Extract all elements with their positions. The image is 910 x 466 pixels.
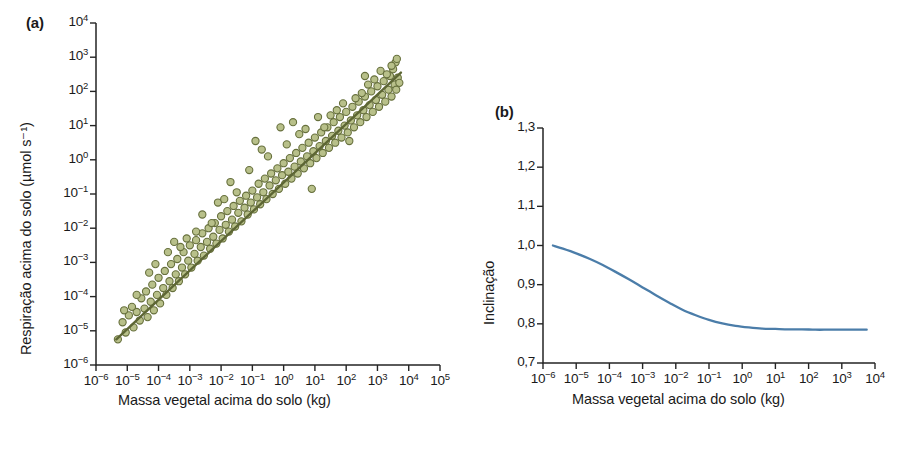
panel-a: (a) Respiração acima do solo (µmol s⁻¹) …	[0, 0, 470, 430]
panel-a-y-ticks	[90, 23, 96, 365]
panel-a-regression-line	[116, 73, 401, 340]
panel-b-label: (b)	[495, 103, 514, 120]
panel-a-y-tick-label: 10−5	[32, 322, 88, 337]
panel-b-y-tick-label: 1,0	[485, 237, 535, 252]
panel-b-slope-curve	[553, 246, 867, 330]
panel-a-y-tick-label: 10−6	[32, 356, 88, 371]
panel-a-y-tick-label: 10−4	[32, 288, 88, 303]
panel-b-x-tick-label: 104	[856, 371, 894, 386]
panel-b-x-axis-title: Massa vegetal acima do solo (kg)	[572, 391, 785, 407]
panel-b-y-tick-label: 0,9	[485, 276, 535, 291]
panel-a-x-ticks	[96, 365, 440, 371]
panel-a-y-tick-label: 102	[32, 82, 88, 97]
panel-b-y-tick-label: 1,1	[485, 197, 535, 212]
panel-a-y-tick-label: 101	[32, 117, 88, 132]
panel-a-y-tick-label: 10−2	[32, 219, 88, 234]
panel-b-axis-spine	[543, 128, 875, 363]
panel-a-y-tick-label: 100	[32, 151, 88, 166]
panel-a-x-tick-label: 105	[421, 373, 459, 388]
panel-a-y-tick-label: 103	[32, 48, 88, 63]
figure-container: (a) Respiração acima do solo (µmol s⁻¹) …	[0, 0, 910, 466]
panel-a-y-tick-label: 10−1	[32, 185, 88, 200]
panel-b-x-ticks	[543, 363, 875, 369]
panel-a-y-tick-label: 10−3	[32, 253, 88, 268]
panel-b-y-tick-label: 0,8	[485, 315, 535, 330]
panel-a-y-tick-label: 104	[32, 14, 88, 29]
panel-a-x-axis-title: Massa vegetal acima do solo (kg)	[118, 392, 331, 408]
panel-b-y-tick-label: 0,7	[485, 354, 535, 369]
panel-b-y-ticks	[537, 128, 543, 363]
panel-b: (b) Inclinação Massa vegetal acima do so…	[455, 95, 910, 435]
panel-b-y-tick-label: 1,3	[485, 119, 535, 134]
panel-b-y-tick-label: 1,2	[485, 158, 535, 173]
